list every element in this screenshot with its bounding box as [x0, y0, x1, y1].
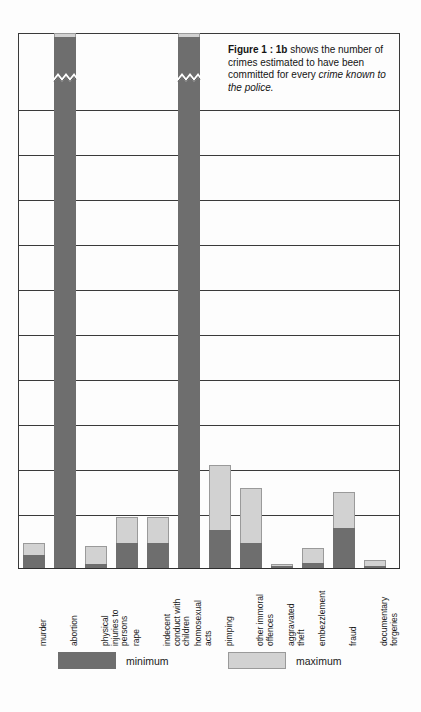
legend-swatch-maximum [228, 652, 286, 669]
category-label: aggravated theft [287, 572, 306, 646]
category-label: embezzlement [318, 572, 328, 646]
legend-item-maximum: maximum [228, 652, 342, 669]
bar-segment-minimum [209, 530, 231, 568]
category-label: other immoral offences [256, 572, 275, 646]
legend-swatch-minimum [58, 652, 116, 669]
bar-segment-minimum [85, 564, 107, 568]
figure-panel: Figure 1 : 1b shows the number of crimes… [0, 0, 421, 712]
bar-segment-minimum [54, 37, 76, 568]
category-label: fraud [349, 572, 359, 646]
legend-label-minimum: minimum [126, 655, 169, 667]
category-axis-labels: murderabortionphysical injuries to perso… [18, 572, 400, 650]
category-label: documentary forgeries [380, 572, 399, 646]
legend: minimum maximum [18, 652, 400, 676]
bar-segment-minimum [240, 543, 262, 568]
bar-segment-minimum [364, 566, 386, 568]
category-label: indecent conduct with children [163, 572, 192, 646]
bar-segment-minimum [302, 563, 324, 568]
plot-area [18, 33, 400, 568]
axis-baseline [18, 568, 400, 569]
legend-label-maximum: maximum [296, 655, 342, 667]
bar-segment-minimum [178, 37, 200, 568]
bar-segment-minimum [116, 543, 138, 568]
bar-segment-minimum [147, 543, 169, 568]
category-label: murder [39, 572, 49, 646]
category-label: abortion [70, 572, 80, 646]
category-label: pimping [225, 572, 235, 646]
bar-segment-minimum [23, 555, 45, 568]
category-label: rape [132, 572, 142, 646]
legend-item-minimum: minimum [58, 652, 169, 669]
bar-segment-minimum [271, 566, 293, 568]
category-label: homosexual acts [194, 572, 213, 646]
category-label: physical injuries to persons [101, 572, 130, 646]
bar-segment-minimum [333, 528, 355, 568]
